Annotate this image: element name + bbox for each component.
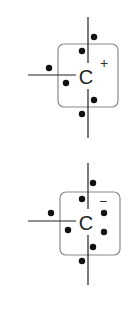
electron-dot: [48, 210, 54, 216]
electron-dot: [79, 48, 85, 54]
carbon-atom-label: C: [79, 212, 93, 234]
electron-dot: [79, 111, 85, 117]
electron-dot: [91, 97, 97, 103]
electron-dot: [101, 229, 107, 235]
electron-dot: [91, 34, 97, 40]
electron-dot: [90, 244, 96, 250]
electron-dot: [79, 258, 85, 264]
carbanion-diagram: C −: [28, 163, 120, 285]
electron-dot: [63, 80, 69, 86]
electron-dot: [101, 210, 107, 216]
carbon-atom-label: C: [79, 66, 93, 88]
electron-dot: [65, 227, 71, 233]
lewis-structures-canvas: C + C −: [0, 0, 128, 317]
electron-dot: [90, 180, 96, 186]
carbocation-diagram: C +: [28, 17, 118, 138]
positive-charge-label: +: [100, 55, 108, 71]
negative-charge-label: −: [99, 193, 107, 209]
electron-dot: [79, 196, 85, 202]
electron-dot: [46, 65, 52, 71]
